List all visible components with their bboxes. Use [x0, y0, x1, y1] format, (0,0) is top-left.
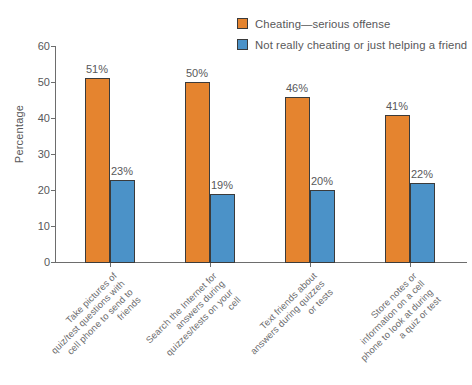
bar-value-series-2-category-3: 20%: [305, 175, 339, 187]
bar-value-series-1-category-4: 41%: [380, 100, 414, 112]
y-axis-title: Percentage: [13, 89, 25, 179]
bar-chart: Cheating—serious offense Not really chea…: [0, 0, 472, 385]
bar-value-series-1-category-1: 51%: [80, 63, 114, 75]
bar-value-series-1-category-2: 50%: [180, 67, 214, 79]
y-tick-label-10: 10: [24, 221, 50, 232]
y-tick-label-60: 60: [24, 41, 50, 52]
bar-series-2-category-4[interactable]: [410, 183, 435, 263]
bar-series-2-category-3[interactable]: [310, 190, 335, 263]
y-tick-label-0: 0: [24, 257, 50, 268]
y-axis-line: [55, 46, 56, 263]
bar-value-series-2-category-1: 23%: [105, 165, 139, 177]
bar-value-series-2-category-4: 22%: [405, 168, 439, 180]
x-tick-mark-category-1: [110, 263, 111, 267]
legend-item-cheating-serious-offense: Cheating—serious offense: [237, 14, 472, 33]
bar-series-2-category-1[interactable]: [110, 180, 135, 263]
y-tick-label-20: 20: [24, 185, 50, 196]
bar-value-series-1-category-3: 46%: [280, 82, 314, 94]
legend-item-not-really-cheating: Not really cheating or just helping a fr…: [237, 35, 472, 54]
legend-swatch-icon-series-1: [237, 18, 248, 29]
legend-label-series-2: Not really cheating or just helping a fr…: [255, 39, 467, 51]
x-tick-mark-category-4: [410, 263, 411, 267]
x-tick-mark-category-3: [310, 263, 311, 267]
y-tick-label-40: 40: [24, 113, 50, 124]
bar-value-series-2-category-2: 19%: [205, 179, 239, 191]
bar-series-2-category-2[interactable]: [210, 194, 235, 263]
legend-swatch-icon-series-2: [237, 39, 248, 50]
y-tick-label-50: 50: [24, 77, 50, 88]
x-tick-mark-category-2: [210, 263, 211, 267]
bar-series-1-category-4[interactable]: [385, 115, 410, 263]
chart-legend: Cheating—serious offense Not really chea…: [237, 14, 472, 56]
legend-label-series-1: Cheating—serious offense: [255, 18, 390, 30]
y-tick-label-30: 30: [24, 149, 50, 160]
bar-series-1-category-2[interactable]: [185, 82, 210, 263]
